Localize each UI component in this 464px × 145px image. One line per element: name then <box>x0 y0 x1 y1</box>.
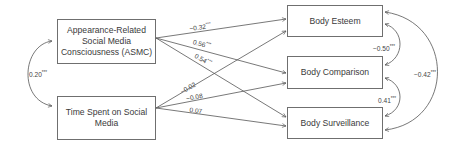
body-surveillance-label: Body Surveillance <box>301 118 370 129</box>
path-time-esteem <box>156 31 286 108</box>
box-body-surveillance: Body Surveillance <box>287 107 383 139</box>
body-esteem-label: Body Esteem <box>309 16 360 27</box>
path-asmc-comparison <box>156 38 286 73</box>
sig-stars: *** <box>42 70 47 75</box>
cov-label-esteem-surveillance: −0.42*** <box>414 69 436 79</box>
cov-label-comparison-surveillance: 0.41*** <box>378 95 396 105</box>
coef-value: 0.41 <box>378 97 391 104</box>
time-line-2: Media <box>66 118 147 129</box>
box-body-comparison: Body Comparison <box>287 56 383 89</box>
sig-stars: *** <box>390 44 395 49</box>
coef-value: 0.56 <box>192 38 206 48</box>
sig-stars: *** <box>391 96 396 101</box>
box-asmc: Appearance-Related Social Media Consciou… <box>57 19 156 64</box>
coef-value: −0.42 <box>414 71 431 78</box>
coef-value: −0.50 <box>373 45 390 52</box>
coef-value: −0.32 <box>189 23 206 32</box>
path-time-surveillance <box>156 108 286 126</box>
coef-value: 0.07 <box>189 106 203 115</box>
asmc-line-3: Consciousness (ASMC) <box>61 47 152 58</box>
sig-stars: *** <box>205 21 211 27</box>
sig-stars: *** <box>431 70 436 75</box>
box-body-esteem: Body Esteem <box>287 5 383 37</box>
time-line-1: Time Spent on Social <box>66 107 147 118</box>
asmc-line-2: Social Media <box>61 36 152 47</box>
coef-value: 0.20 <box>29 71 42 78</box>
body-comparison-label: Body Comparison <box>301 67 369 78</box>
cov-label-esteem-comparison: −0.50*** <box>373 43 395 53</box>
coef-time-surveillance: 0.07 <box>189 104 203 115</box>
path-asmc-surveillance <box>156 38 286 117</box>
cov-label-asmc-time: 0.20*** <box>29 69 47 79</box>
path-asmc-esteem <box>156 19 286 38</box>
path-time-comparison <box>156 83 286 108</box>
box-time-spent: Time Spent on Social Media <box>57 96 156 140</box>
asmc-line-1: Appearance-Related <box>61 25 152 36</box>
